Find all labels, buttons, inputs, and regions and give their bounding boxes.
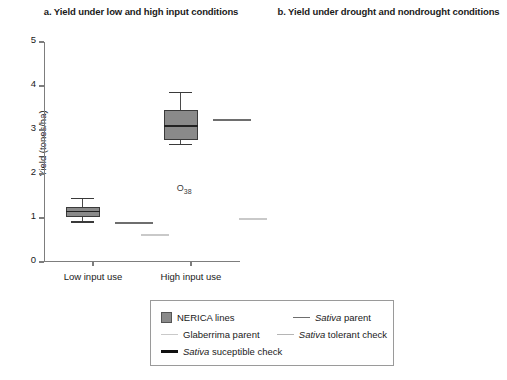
boxplot-whisker-cap (71, 221, 94, 222)
legend-label-glaberrima-parent: Glaberrima parent (183, 329, 260, 340)
legend-label-sativa-suceptible-rest: suceptible check (209, 346, 282, 357)
legend-label-sativa-suceptible-check: Sativa suceptible check (183, 346, 282, 357)
x-tick-label: High input use (161, 271, 222, 282)
panel-a: a. Yield under low and high input condit… (0, 0, 258, 296)
y-tick: 2 (39, 173, 44, 174)
x-tick: High input use (190, 262, 191, 266)
legend-item-sativa-tolerant-check: Sativa tolerant check (277, 329, 387, 340)
panel-container: a. Yield under low and high input condit… (0, 0, 507, 296)
boxplot-whisker-cap (169, 144, 192, 145)
y-tick-label: 5 (31, 34, 36, 45)
boxplot-outlier: O38 (177, 183, 192, 195)
y-tick: 4 (39, 85, 44, 86)
legend-row: Glaberrima parent Sativa tolerant check (161, 326, 387, 343)
legend-label-sativa-suceptible-italic: Sativa (183, 346, 209, 357)
figure-boxplot-yield: a. Yield under low and high input condit… (0, 0, 507, 380)
reference-line (213, 119, 251, 121)
legend-label-sativa-tolerant-italic: Sativa (299, 329, 325, 340)
y-tick: 0 (39, 261, 44, 262)
legend-item-nerica-lines: NERICA lines (161, 312, 293, 323)
legend-label-sativa-tolerant-check: Sativa tolerant check (299, 329, 387, 340)
boxplot-median (164, 125, 198, 126)
panel-a-y-axis (44, 42, 45, 262)
y-tick: 3 (39, 129, 44, 130)
panel-a-title: a. Yield under low and high input condit… (0, 6, 258, 19)
legend-row: Sativa suceptible check (161, 343, 387, 360)
y-tick-label: 4 (31, 78, 36, 89)
panel-b-title: b. Yield under drought and nondrought co… (252, 6, 507, 19)
boxplot-whisker-cap (169, 92, 192, 93)
y-tick-label: 0 (31, 254, 36, 265)
y-tick: 1 (39, 217, 44, 218)
legend-swatch-line-icon (293, 317, 310, 319)
legend-item-glaberrima-parent: Glaberrima parent (161, 329, 277, 340)
reference-line (115, 222, 153, 224)
legend-swatch-line-icon (277, 334, 294, 336)
boxplot-whisker-cap (71, 198, 94, 199)
legend-label-sativa-parent: Sativa parent (315, 312, 371, 323)
outlier-sublabel: 38 (184, 188, 192, 195)
legend-label-sativa-parent-rest: parent (341, 312, 371, 323)
panel-a-y-axis-label: Yield (tones/ha) (37, 94, 48, 194)
legend-row: NERICA lines Sativa parent (161, 309, 387, 326)
panel-a-x-axis (44, 261, 240, 262)
legend-label-nerica-lines: NERICA lines (177, 312, 235, 323)
boxplot-median (66, 211, 100, 212)
legend-item-sativa-parent: Sativa parent (293, 312, 371, 323)
x-tick: Low input use (92, 262, 93, 266)
y-tick-label: 1 (31, 210, 36, 221)
legend-label-sativa-parent-italic: Sativa (315, 312, 341, 323)
legend-swatch-box-icon (161, 312, 172, 323)
y-tick: 5 (39, 41, 44, 42)
legend-swatch-line-icon (161, 334, 178, 336)
reference-line (141, 234, 169, 236)
x-tick-label: Low input use (64, 271, 123, 282)
outlier-label: O (177, 183, 184, 193)
panel-b: b. Yield under drought and nondrought co… (252, 0, 507, 296)
y-tick-label: 2 (31, 166, 36, 177)
legend-item-sativa-suceptible-check: Sativa suceptible check (161, 346, 282, 357)
legend-swatch-thick-line-icon (161, 350, 178, 352)
legend-grid: NERICA lines Sativa parent Glaberrima pa… (151, 301, 393, 365)
legend: NERICA lines Sativa parent Glaberrima pa… (150, 300, 394, 366)
legend-label-sativa-tolerant-rest: tolerant check (325, 329, 387, 340)
y-tick-label: 3 (31, 122, 36, 133)
panel-a-plot-area: Yield (tones/ha) 012345Low input useHigh… (44, 42, 240, 262)
